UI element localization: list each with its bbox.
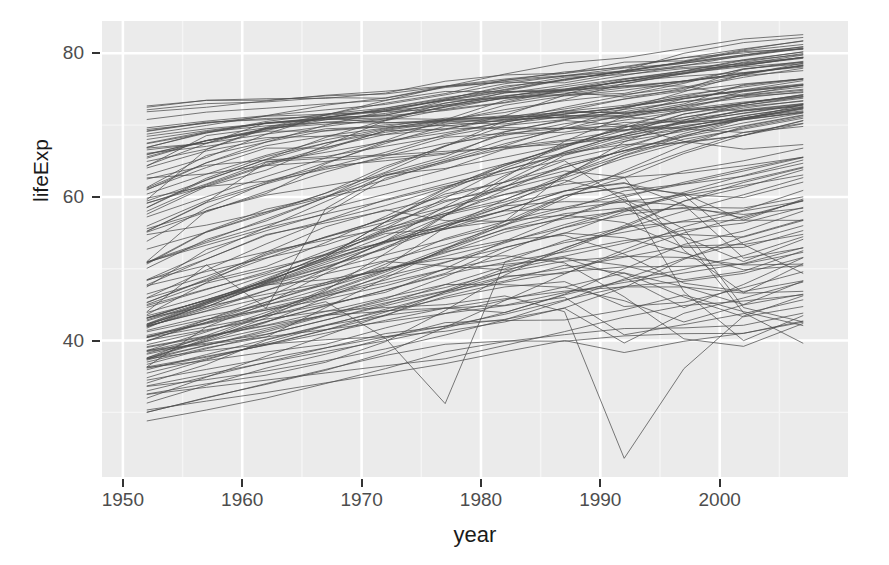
y-tick-label: 60: [44, 187, 84, 206]
y-tick-mark: [92, 52, 100, 54]
x-tick-mark: [241, 479, 243, 487]
plot-panel: [102, 21, 848, 477]
x-tick-label: 2000: [680, 490, 760, 509]
plot-lines-svg: [102, 21, 848, 477]
x-tick-label: 1990: [560, 490, 640, 509]
y-tick-mark: [92, 340, 100, 342]
x-tick-mark: [719, 479, 721, 487]
chart-figure: lifeExp 806040 195019601970198019902000 …: [0, 0, 889, 565]
y-tick-mark: [92, 196, 100, 198]
x-tick-label: 1960: [202, 490, 282, 509]
x-tick-mark: [122, 479, 124, 487]
x-tick-label: 1950: [83, 490, 163, 509]
x-axis-title: year: [102, 523, 848, 547]
x-tick-label: 1980: [441, 490, 521, 509]
y-tick-label: 40: [44, 331, 84, 350]
series-lines: [147, 35, 803, 459]
x-tick-mark: [480, 479, 482, 487]
y-tick-label: 80: [44, 43, 84, 62]
x-tick-mark: [361, 479, 363, 487]
x-tick-label: 1970: [322, 490, 402, 509]
x-tick-mark: [599, 479, 601, 487]
